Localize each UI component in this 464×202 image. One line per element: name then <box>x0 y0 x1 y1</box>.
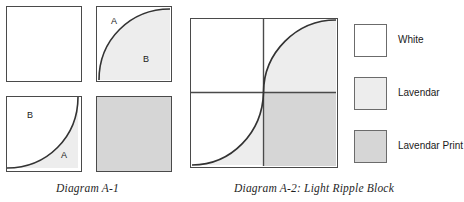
legend-swatch-lavendar <box>354 77 387 110</box>
caption-diagram-a2: Diagram A-2: Light Ripple Block <box>234 182 394 194</box>
ripple-block-shape <box>191 19 336 166</box>
legend-label-lavendar-print: Lavendar Print <box>398 140 463 151</box>
square-curve-lavendar: A B <box>96 6 172 82</box>
convex-curve-shape <box>7 97 80 170</box>
light-ripple-block <box>190 18 338 168</box>
diagram-page: A B B A Diagram A-1 <box>0 0 464 202</box>
square-solid-lavendar-print <box>96 96 172 172</box>
cell-label-a: A <box>61 151 67 160</box>
square-curve-lavendar-lower: B A <box>6 96 82 172</box>
concave-curve-shape <box>97 7 170 80</box>
legend-swatch-lavendar-print <box>354 130 387 163</box>
legend-swatch-white <box>354 24 387 57</box>
cell-label-a: A <box>111 17 117 26</box>
legend-label-white: White <box>398 34 424 45</box>
legend-label-lavendar: Lavendar <box>398 87 440 98</box>
cell-label-b: B <box>27 111 33 120</box>
cell-label-b: B <box>143 55 149 64</box>
caption-diagram-a1: Diagram A-1 <box>56 182 119 194</box>
square-plain-white <box>6 6 82 82</box>
